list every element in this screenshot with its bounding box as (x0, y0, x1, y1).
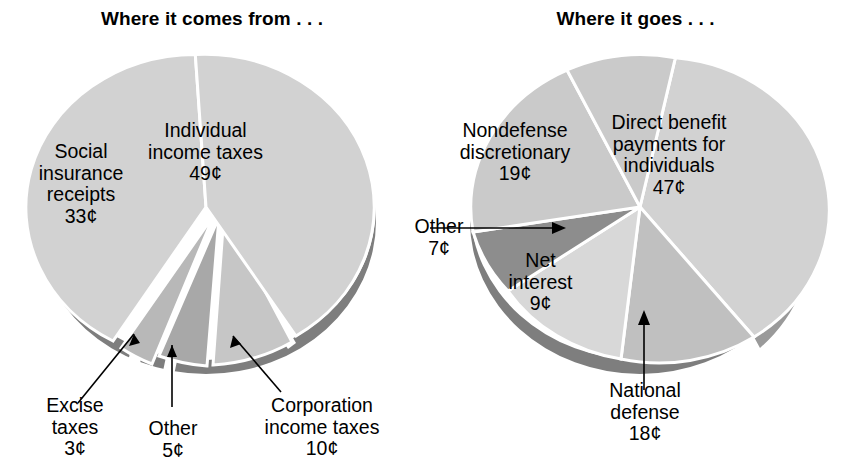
label-line-1: Other (128, 418, 218, 440)
label-value: 18¢ (580, 423, 710, 445)
label-line-2: defense (580, 402, 710, 424)
callout-label-other-right: Other 7¢ (394, 216, 484, 259)
label-value: 5¢ (128, 440, 218, 462)
pie-top-face-left (26, 54, 374, 366)
label-line-2: income taxes (232, 417, 412, 439)
callout-label-national-defense: National defense 18¢ (580, 380, 710, 445)
label-line-1: Other (394, 216, 484, 238)
callout-label-other: Other 5¢ (128, 418, 218, 461)
label-value: 3¢ (10, 438, 140, 460)
budget-pie-figure: Where it comes from . . . (0, 0, 847, 474)
label-value: 7¢ (394, 238, 484, 260)
label-line-1: National (580, 380, 710, 402)
label-value: 10¢ (232, 438, 412, 460)
pie-top-face-right (471, 55, 829, 363)
chart-panel-where-it-goes: Where it goes . . . (424, 0, 847, 474)
label-line-2: taxes (10, 417, 140, 439)
chart-panel-where-it-comes-from: Where it comes from . . . (0, 0, 424, 474)
callout-label-excise-taxes: Excise taxes 3¢ (10, 395, 140, 460)
label-line-1: Corporation (232, 395, 412, 417)
callout-label-corporation-income-taxes: Corporation income taxes 10¢ (232, 395, 412, 460)
label-line-1: Excise (10, 395, 140, 417)
